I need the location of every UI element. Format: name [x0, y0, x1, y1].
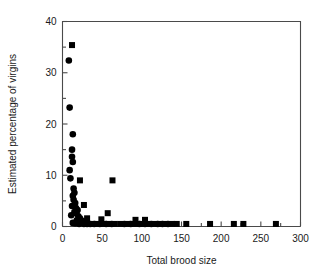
x-tick-label-100: 100	[133, 233, 150, 244]
data-point-circle	[68, 212, 75, 219]
data-point-square	[117, 221, 123, 227]
data-point-square	[174, 221, 180, 227]
data-point-square	[231, 221, 237, 227]
plot-frame	[63, 22, 301, 227]
data-point-square	[94, 221, 100, 227]
x-tick-label-50: 50	[97, 233, 109, 244]
data-point-square	[183, 221, 189, 227]
data-point-square	[163, 221, 169, 227]
data-point-square	[84, 215, 90, 221]
data-point-circle	[67, 175, 74, 182]
data-point-square	[129, 221, 135, 227]
y-axis-title: Estimated percentage of virgins	[7, 54, 18, 194]
y-tick-label-0: 0	[51, 221, 57, 232]
data-point-square	[112, 221, 118, 227]
scatter-plot-figure: 050100150200250300010203040 Total brood …	[0, 0, 322, 279]
data-point-circle	[66, 167, 73, 174]
data-point-square	[207, 221, 213, 227]
data-point-square	[69, 42, 75, 48]
plot-canvas: 050100150200250300010203040 Total brood …	[0, 0, 322, 279]
axes-group	[63, 22, 301, 227]
data-point-square	[81, 202, 87, 208]
x-tick-label-300: 300	[292, 233, 309, 244]
x-tick-label-250: 250	[252, 233, 269, 244]
x-axis-title: Total brood size	[146, 255, 216, 266]
data-point-square	[77, 177, 83, 183]
data-point-square	[105, 210, 111, 216]
data-point-circle	[70, 159, 77, 166]
tick-labels-group: 050100150200250300010203040	[45, 16, 309, 243]
data-point-square	[240, 221, 246, 227]
data-point-square	[157, 221, 163, 227]
x-tick-label-150: 150	[173, 233, 190, 244]
data-point-square	[106, 221, 112, 227]
data-point-square	[139, 221, 145, 227]
data-point-square	[74, 210, 80, 216]
x-tick-label-200: 200	[213, 233, 230, 244]
data-point-circle	[66, 104, 73, 111]
data-point-circle	[66, 57, 73, 64]
data-point-circle	[70, 131, 77, 138]
y-tick-label-20: 20	[45, 119, 57, 130]
ticks-group	[63, 22, 301, 227]
data-point-square	[83, 221, 89, 227]
y-tick-label-30: 30	[45, 67, 57, 78]
data-point-square	[145, 221, 151, 227]
data-point-square	[273, 221, 279, 227]
y-tick-label-10: 10	[45, 170, 57, 181]
x-tick-label-0: 0	[60, 233, 66, 244]
data-point-square	[152, 221, 158, 227]
y-tick-label-40: 40	[45, 16, 57, 27]
data-point-square	[109, 177, 115, 183]
data-point-circle	[69, 146, 76, 153]
data-points-group	[66, 42, 279, 227]
